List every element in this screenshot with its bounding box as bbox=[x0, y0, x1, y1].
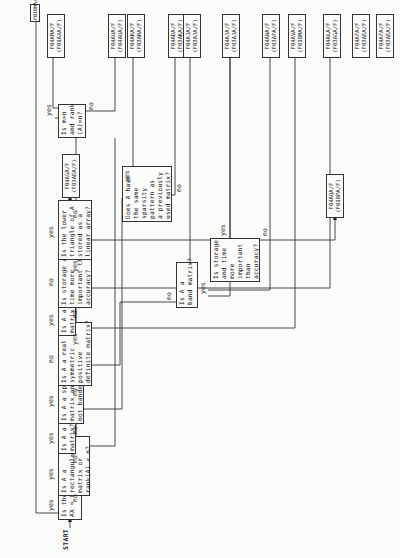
yes-label: yes bbox=[220, 224, 227, 236]
routine-f04ala: F04ALA/F (F03AGA/F) bbox=[323, 14, 341, 58]
yes-label: yes bbox=[72, 333, 79, 345]
no-label: no bbox=[72, 310, 79, 318]
yes-label: yes bbox=[48, 432, 55, 444]
routine-f04afa-1: F04AFA/F (F03AEA/F) bbox=[352, 14, 370, 58]
routine-f04ama: F04AMA/F (F01AXA/F) bbox=[47, 14, 65, 58]
decision-storage-2: Is storage and time more important than … bbox=[210, 238, 260, 282]
routine-f01bma: F01BMA/F bbox=[30, 4, 40, 22]
start-label: START bbox=[62, 529, 70, 550]
yes-label: yes bbox=[48, 226, 55, 238]
no-label: no bbox=[262, 228, 269, 236]
no-label: no bbox=[48, 355, 55, 363]
no-label: no bbox=[72, 426, 79, 434]
routine-f04afa-2: F04AFA/F (F03AEA/F) bbox=[376, 14, 394, 58]
no-label: no bbox=[48, 278, 55, 286]
routine-f04aga: F04AGA/F (F03AEA/F) bbox=[62, 154, 80, 198]
flowchart-canvas: START Is the problem AX = 0? Is A a rect… bbox=[0, 0, 400, 558]
routine-f04aja-2: F04AJA/F (F03AJA/F) bbox=[222, 14, 240, 58]
routine-f04aua: F04AUA/F (F04AUA/F) bbox=[108, 14, 126, 58]
no-label: no bbox=[88, 102, 95, 110]
decision-lower-triangle: Is the lower triangle of A stored as a l… bbox=[58, 200, 92, 260]
no-label: no bbox=[72, 210, 79, 218]
no-label: no bbox=[72, 388, 79, 396]
routine-f04aqa: F04AQA/F (F01BPA/F) bbox=[326, 174, 344, 218]
no-label: no bbox=[72, 455, 79, 463]
no-label: no bbox=[176, 184, 183, 192]
yes-label: yes bbox=[124, 170, 131, 182]
routine-f04aka: F04AKA/F (F03AHA/F) bbox=[127, 14, 145, 58]
decision-band-2: Is A a band matrix? bbox=[176, 262, 198, 308]
routine-f04ava: F04AVA/F (F01BMA/F) bbox=[288, 14, 306, 58]
yes-label: yes bbox=[46, 104, 53, 116]
routine-f04awa: F04AWA/F (F03AFA/F) bbox=[262, 14, 280, 58]
routine-f04aja-1: F04AJA/F (F03AJA/F) bbox=[183, 14, 201, 58]
no-label: no bbox=[72, 494, 79, 502]
yes-label: yes bbox=[48, 395, 55, 407]
yes-label: yes bbox=[72, 260, 79, 272]
yes-label: yes bbox=[200, 282, 207, 294]
yes-label: yes bbox=[48, 468, 55, 480]
no-label: no bbox=[166, 292, 173, 300]
yes-label: yes bbox=[48, 499, 55, 511]
decision-m-gt-n: Is m>n and rank (A)=n? bbox=[58, 104, 86, 138]
yes-label: yes bbox=[48, 314, 55, 326]
